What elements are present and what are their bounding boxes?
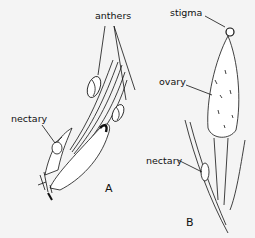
label-nectary-b: nectary — [146, 156, 182, 166]
panel-a-drawing — [38, 26, 135, 200]
label-nectary-a: nectary — [11, 114, 47, 124]
label-anthers: anthers — [95, 11, 131, 21]
label-stigma: stigma — [170, 8, 202, 18]
flower-diagram: anthers nectary A stigma ovary nectary B — [0, 0, 255, 238]
panel-label-b: B — [186, 217, 194, 228]
label-ovary: ovary — [159, 77, 186, 87]
panel-label-a: A — [105, 183, 113, 194]
panel-b-drawing — [178, 16, 245, 233]
